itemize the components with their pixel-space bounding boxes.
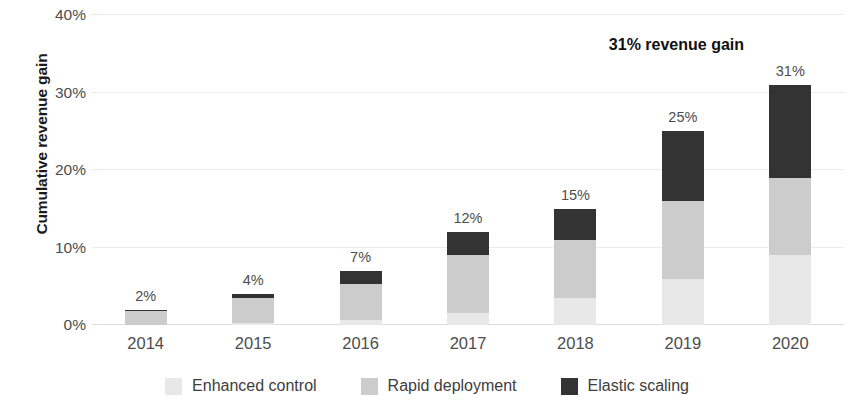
bar-segment[interactable] [769, 255, 811, 325]
y-axis-tick-label: 40% [8, 6, 86, 24]
bar-segment[interactable] [340, 271, 382, 284]
bar-segment[interactable] [662, 201, 704, 279]
legend-label: Elastic scaling [588, 377, 689, 395]
bar-value-label: 15% [561, 187, 590, 203]
y-axis-tick-label: 20% [8, 161, 86, 179]
legend-item[interactable]: Elastic scaling [561, 377, 689, 395]
legend-swatch-icon [165, 378, 182, 395]
gridline [92, 169, 844, 170]
bar-group[interactable]: 2% [125, 310, 167, 326]
y-axis-tick-label: 0% [8, 316, 86, 334]
bar-segment[interactable] [340, 320, 382, 325]
bar-segment[interactable] [769, 85, 811, 178]
y-axis-tick-labels: 0%10%20%30%40% [0, 15, 86, 325]
bar-segment[interactable] [554, 240, 596, 298]
bar-segment[interactable] [232, 323, 274, 325]
bar-segment[interactable] [232, 298, 274, 323]
bar-group[interactable]: 12% [447, 232, 489, 325]
x-axis-tick-label: 2015 [208, 334, 298, 353]
bar-value-label: 31% [776, 63, 805, 79]
chart-container: Cumulative revenue gain 0%10%20%30%40% 2… [0, 0, 854, 410]
bar-segment[interactable] [662, 131, 704, 201]
legend-label: Enhanced control [192, 377, 317, 395]
bar-value-label: 2% [135, 288, 156, 304]
bar-group[interactable]: 4% [232, 294, 274, 325]
x-axis-tick-label: 2020 [745, 334, 835, 353]
bar-segment[interactable] [447, 313, 489, 325]
legend-swatch-icon [561, 378, 578, 395]
bar-value-label: 4% [243, 272, 264, 288]
x-axis-tick-label: 2017 [423, 334, 513, 353]
legend-item[interactable]: Enhanced control [165, 377, 317, 395]
bar-segment[interactable] [554, 209, 596, 240]
bar-value-label: 12% [453, 210, 482, 226]
legend-item[interactable]: Rapid deployment [361, 377, 517, 395]
y-axis-tick-label: 30% [8, 84, 86, 102]
bar-segment[interactable] [447, 255, 489, 313]
bar-value-label: 7% [350, 249, 371, 265]
x-axis-tick-label: 2016 [316, 334, 406, 353]
bar-value-label: 25% [668, 109, 697, 125]
bar-segment[interactable] [662, 279, 704, 326]
bar-segment[interactable] [554, 298, 596, 325]
bar-segment[interactable] [125, 311, 167, 325]
y-axis-tick-label: 10% [8, 239, 86, 257]
gridline [92, 92, 844, 93]
chart-annotation: 31% revenue gain [609, 36, 744, 54]
x-axis-tick-label: 2014 [101, 334, 191, 353]
x-axis-tick-label: 2019 [638, 334, 728, 353]
legend-swatch-icon [361, 378, 378, 395]
bar-segment[interactable] [769, 178, 811, 256]
x-axis-tick-label: 2018 [530, 334, 620, 353]
bar-group[interactable]: 31% [769, 85, 811, 325]
bar-group[interactable]: 15% [554, 209, 596, 325]
bar-segment[interactable] [125, 310, 167, 312]
bar-group[interactable]: 7% [340, 271, 382, 325]
chart-legend: Enhanced controlRapid deploymentElastic … [0, 377, 854, 395]
bar-group[interactable]: 25% [662, 131, 704, 325]
legend-label: Rapid deployment [388, 377, 517, 395]
gridline [92, 14, 844, 15]
plot-area: 2%4%7%12%15%25%31% [92, 15, 844, 325]
bar-segment[interactable] [340, 284, 382, 320]
bar-segment[interactable] [232, 294, 274, 298]
bar-segment[interactable] [447, 232, 489, 255]
